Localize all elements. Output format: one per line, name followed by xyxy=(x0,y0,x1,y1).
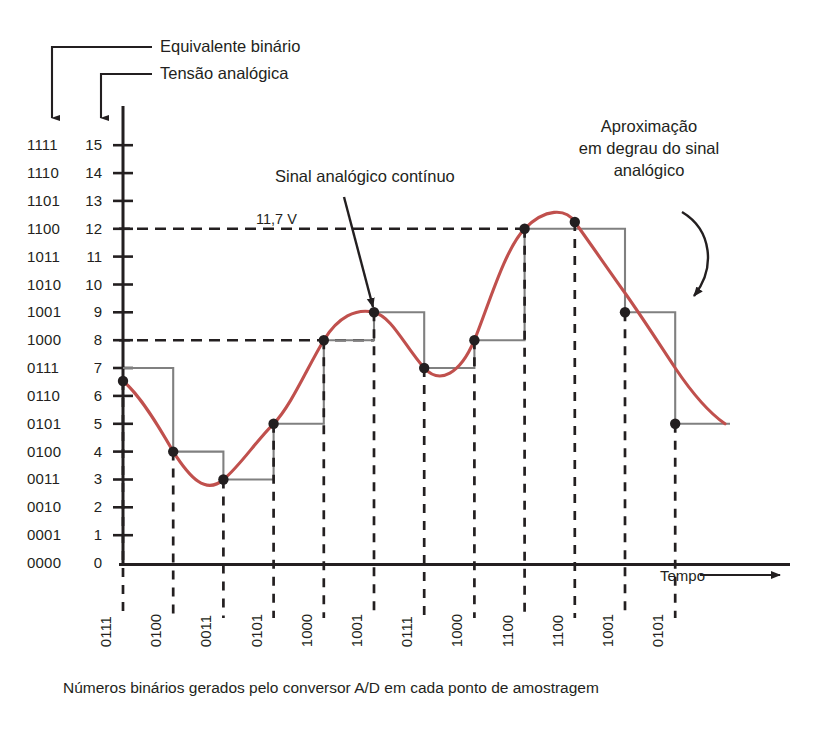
sample-label-10: 1100 xyxy=(548,615,567,647)
y-tick-decimal-4: 4 xyxy=(78,442,102,461)
y-tick-binary-0111: 0111 xyxy=(27,358,59,377)
y-tick-decimal-10: 10 xyxy=(78,275,102,294)
y-tick-binary-1101: 1101 xyxy=(27,191,60,210)
sample-label-5: 1000 xyxy=(297,614,316,647)
sample-label-12: 0101 xyxy=(648,614,667,647)
y-tick-decimal-11: 11 xyxy=(78,247,102,266)
y-tick-binary-0011: 0011 xyxy=(27,469,60,488)
y-tick-binary-0101: 0101 xyxy=(27,414,61,433)
y-tick-decimal-14: 14 xyxy=(78,163,102,182)
annotation-arrow-step-approx xyxy=(682,212,708,296)
ad-conversion-figure: Equivalente binário Tensão analógica Sin… xyxy=(0,0,813,729)
annotation-arrow-analog-signal xyxy=(344,197,373,307)
y-tick-binary-0001: 0001 xyxy=(27,525,61,544)
y-tick-binary-1011: 1011 xyxy=(27,247,60,266)
y-tick-binary-0000: 0000 xyxy=(27,553,61,572)
annotation-step-approx-line3: analógico xyxy=(553,160,745,181)
y-tick-binary-0110: 0110 xyxy=(27,386,60,405)
sample-label-3: 0011 xyxy=(196,615,215,647)
y-tick-binary-1111: 1111 xyxy=(27,135,58,154)
y-tick-binary-0010: 0010 xyxy=(27,497,61,516)
y-tick-decimal-3: 3 xyxy=(78,469,102,488)
annotation-step-approx-line2: em degrau do sinal xyxy=(553,138,745,159)
sample-label-7: 0111 xyxy=(397,616,416,647)
leader-tensao-analogica xyxy=(101,74,152,118)
sample-label-8: 1000 xyxy=(447,614,466,647)
sample-label-9: 1100 xyxy=(497,615,516,647)
sample-label-4: 0101 xyxy=(246,614,265,647)
y-tick-decimal-6: 6 xyxy=(78,386,102,405)
y-tick-binary-1100: 1100 xyxy=(27,219,60,238)
leader-label-equivalente-binario: Equivalente binário xyxy=(160,36,300,57)
sampling-dashed-lines xyxy=(123,222,675,618)
y-tick-decimal-12: 12 xyxy=(78,219,102,238)
sample-label-2: 0100 xyxy=(146,614,165,647)
sample-label-1: 0111 xyxy=(96,616,115,647)
y-tick-decimal-7: 7 xyxy=(78,358,102,377)
y-tick-binary-1010: 1010 xyxy=(27,275,61,294)
y-tick-decimal-8: 8 xyxy=(78,330,102,349)
y-tick-decimal-15: 15 xyxy=(78,135,102,154)
time-axis-label: Tempo xyxy=(660,566,705,585)
y-tick-decimal-0: 0 xyxy=(78,553,102,572)
staircase-approximation xyxy=(123,229,730,480)
y-tick-decimal-1: 1 xyxy=(78,525,102,544)
sample-label-6: 1001 xyxy=(347,614,366,647)
voltage-marker-label: 11,7 V xyxy=(256,210,297,229)
annotation-analog-signal-label: Sinal analógico contínuo xyxy=(275,166,455,187)
y-tick-binary-0100: 0100 xyxy=(27,442,61,461)
leader-label-tensao-analogica: Tensão analógica xyxy=(160,63,288,84)
y-tick-decimal-9: 9 xyxy=(78,302,102,321)
annotation-step-approx-line1: Aproximação xyxy=(553,116,745,137)
y-tick-binary-1110: 1110 xyxy=(27,163,59,182)
y-tick-decimal-13: 13 xyxy=(78,191,102,210)
sample-point-markers xyxy=(118,217,681,485)
y-tick-binary-1000: 1000 xyxy=(27,330,61,349)
sample-label-11: 1001 xyxy=(598,614,617,647)
figure-caption: Números binários gerados pelo conversor … xyxy=(63,678,599,698)
y-tick-binary-1001: 1001 xyxy=(27,302,61,321)
y-tick-decimal-2: 2 xyxy=(78,497,102,516)
y-tick-decimal-5: 5 xyxy=(78,414,102,433)
